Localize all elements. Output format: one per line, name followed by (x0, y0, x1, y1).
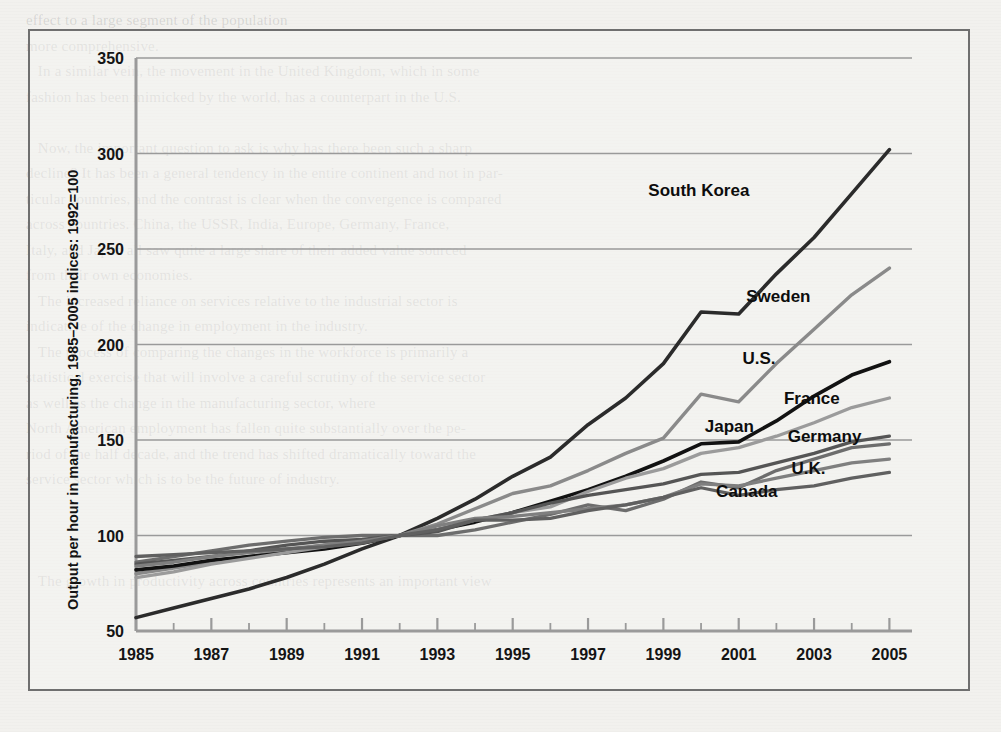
x-tick-label-1991: 1991 (344, 646, 380, 663)
series-line-south-korea (136, 150, 889, 618)
y-tick-label-350: 350 (97, 50, 124, 67)
y-tick-label-150: 150 (97, 432, 124, 449)
x-tick-label-2003: 2003 (796, 646, 832, 663)
x-tick-label-1985: 1985 (118, 646, 154, 663)
x-tick-label-1987: 1987 (194, 646, 230, 663)
y-tick-label-50: 50 (106, 623, 124, 640)
series-label-germany: Germany (788, 427, 862, 446)
series-label-south-korea: South Korea (648, 181, 750, 200)
series-label-u-s: U.S. (742, 349, 775, 368)
chart-svg: 50100150200250300350 1985198719891991199… (0, 0, 1001, 732)
x-tick-label-1997: 1997 (570, 646, 606, 663)
y-tick-labels: 50100150200250300350 (97, 50, 124, 640)
y-tick-label-100: 100 (97, 528, 124, 545)
data-series (136, 150, 889, 618)
x-tick-label-2001: 2001 (721, 646, 757, 663)
x-tick-label-1995: 1995 (495, 646, 531, 663)
series-label-france: France (784, 389, 840, 408)
x-tick-label-1999: 1999 (646, 646, 682, 663)
x-tick-labels: 1985198719891991199319951997199920012003… (118, 646, 907, 663)
x-tick-label-2005: 2005 (872, 646, 908, 663)
tick-marks (136, 618, 889, 631)
y-axis-title: Output per hour in manufacturing, 1985–2… (65, 170, 81, 610)
series-line-u-s (136, 362, 889, 570)
x-tick-label-1993: 1993 (420, 646, 456, 663)
series-label-canada: Canada (716, 482, 778, 501)
series-label-u-k: U.K. (791, 459, 825, 478)
y-tick-label-200: 200 (97, 337, 124, 354)
productivity-line-chart: 50100150200250300350 1985198719891991199… (0, 0, 1001, 732)
y-tick-label-250: 250 (97, 241, 124, 258)
series-label-japan: Japan (705, 417, 754, 436)
y-tick-label-300: 300 (97, 146, 124, 163)
series-label-sweden: Sweden (746, 287, 810, 306)
x-tick-label-1989: 1989 (269, 646, 305, 663)
